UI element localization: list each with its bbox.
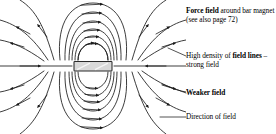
field-diagram bbox=[0, 0, 186, 134]
annotation-force-field-lead: Force field bbox=[186, 6, 219, 15]
annotation-high-density-bold: field lines bbox=[232, 51, 261, 60]
annotation-column: Force field around bar magnet (see also … bbox=[186, 0, 276, 134]
annotation-force-field: Force field around bar magnet (see also … bbox=[186, 6, 276, 24]
annotation-high-density: High density of field lines – strong fie… bbox=[186, 51, 276, 69]
bar-magnet bbox=[74, 62, 112, 72]
annotation-high-density-before: High density of bbox=[186, 51, 232, 60]
annotation-direction-of-field: Direction of field bbox=[186, 112, 276, 121]
figure-magnetic-field-bar-magnet: Force field around bar magnet (see also … bbox=[0, 0, 276, 134]
annotation-weaker-field: Weaker field bbox=[186, 88, 276, 97]
